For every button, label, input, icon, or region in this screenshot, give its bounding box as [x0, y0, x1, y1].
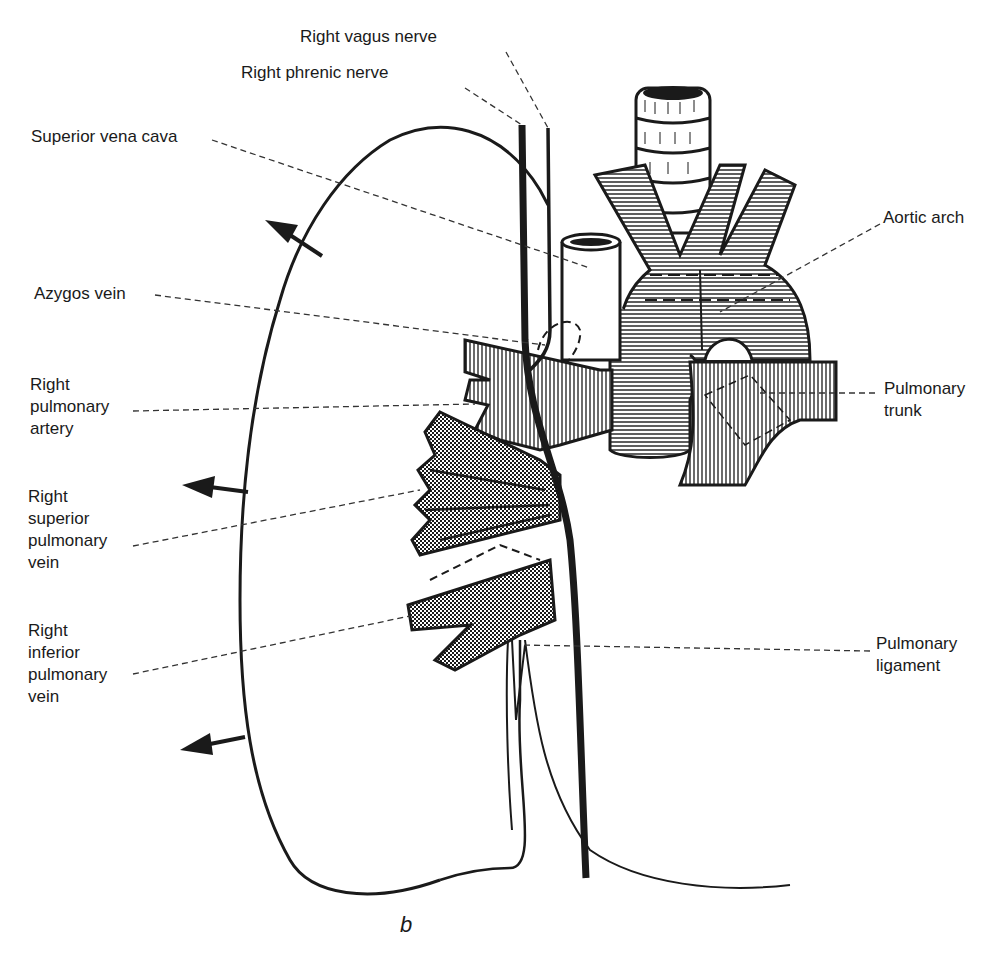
label-right-phrenic-nerve: Right phrenic nerve	[241, 62, 388, 84]
label-aortic-arch: Aortic arch	[883, 207, 964, 229]
label-azygos-vein: Azygos vein	[34, 283, 126, 305]
label-superior-vena-cava: Superior vena cava	[31, 126, 177, 148]
pulmonary-ligament	[507, 640, 790, 888]
pulmonary-trunk	[680, 362, 836, 485]
label-right-inferior-pulmonary-vein: Right inferior pulmonary vein	[28, 620, 107, 708]
right-inferior-pulmonary-vein	[408, 545, 555, 670]
label-pulmonary-ligament: Pulmonary ligament	[876, 633, 957, 677]
label-pulmonary-trunk: Pulmonary trunk	[884, 378, 965, 422]
right-vagus-nerve	[530, 128, 550, 370]
label-right-pulmonary-artery: Right pulmonary artery	[30, 374, 109, 440]
retraction-arrow-middle	[182, 476, 248, 498]
label-right-vagus-nerve: Right vagus nerve	[300, 26, 437, 48]
lung-inferior-border	[440, 640, 525, 880]
panel-letter: b	[400, 912, 412, 938]
label-right-superior-pulmonary-vein: Right superior pulmonary vein	[28, 486, 107, 574]
retraction-arrow-lower	[180, 733, 245, 755]
retraction-arrow-upper	[265, 220, 322, 256]
superior-vena-cava	[562, 234, 620, 360]
